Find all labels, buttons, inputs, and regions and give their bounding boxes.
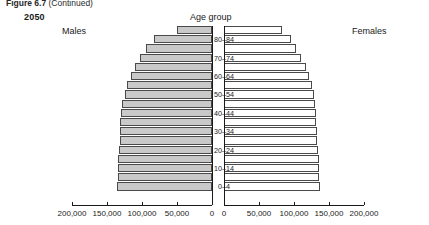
- bar-female-10-14: [224, 164, 319, 172]
- bar-male-50-54: [125, 90, 213, 98]
- male-axis-line: [72, 205, 212, 206]
- bar-female-25-29: [224, 136, 317, 144]
- bar-female-65-69: [224, 63, 306, 71]
- bar-male-80-84: [154, 35, 212, 43]
- bar-male-65-69: [135, 63, 212, 71]
- bar-female-35-39: [224, 118, 316, 126]
- bar-male-20-24: [119, 146, 212, 154]
- bar-female-5-9: [224, 173, 319, 181]
- female-tick-label: 200,000: [340, 209, 388, 218]
- male-tick: [142, 202, 143, 205]
- female-tick: [294, 202, 295, 205]
- bar-male-60-64: [131, 72, 212, 80]
- bar-male-0-4: [117, 182, 212, 190]
- bar-male-30-34: [120, 127, 212, 135]
- bar-male-5-9: [118, 173, 212, 181]
- bar-female-0-4: [224, 182, 320, 190]
- female-tick: [224, 202, 225, 205]
- pyramid-plot-area: 0–410–1420–2430–3440–4450–5460–6470–7480…: [0, 0, 429, 225]
- bar-male-10-14: [118, 164, 212, 172]
- bar-female-40-44: [224, 109, 316, 117]
- male-tick: [72, 202, 73, 205]
- female-axis-line: [224, 205, 364, 206]
- female-zero-spine: [224, 26, 225, 205]
- bar-male-15-19: [118, 155, 213, 163]
- bar-male-35-39: [120, 118, 212, 126]
- bar-male-55-59: [127, 81, 212, 89]
- bar-female-45-49: [224, 100, 315, 108]
- female-tick: [329, 202, 330, 205]
- bar-female-60-64: [224, 72, 309, 80]
- bar-female-55-59: [224, 81, 312, 89]
- bar-male-40-44: [121, 109, 212, 117]
- male-tick: [212, 202, 213, 205]
- population-pyramid-figure: Figure 6.7 (Continued) 2050 Males Female…: [0, 0, 429, 225]
- bar-male-25-29: [120, 136, 212, 144]
- bar-female-30-34: [224, 127, 317, 135]
- male-tick: [177, 202, 178, 205]
- bar-male-75-79: [146, 44, 213, 52]
- bar-male-70-74: [140, 54, 212, 62]
- male-zero-spine: [212, 26, 213, 205]
- bar-male-45-49: [122, 100, 212, 108]
- female-tick: [364, 202, 365, 205]
- bar-female-50-54: [224, 90, 314, 98]
- bar-female-20-24: [224, 146, 318, 154]
- female-tick: [259, 202, 260, 205]
- bar-female-15-19: [224, 155, 319, 163]
- male-tick: [107, 202, 108, 205]
- bar-male-85+: [177, 26, 212, 34]
